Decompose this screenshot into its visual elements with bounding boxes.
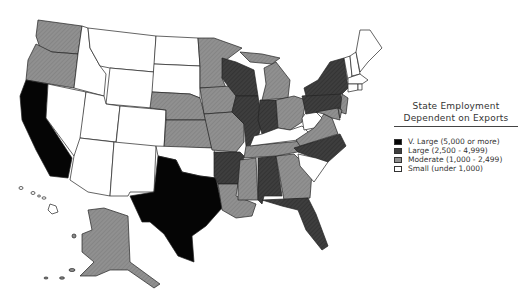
legend-label: Small (under 1,000) bbox=[408, 164, 483, 173]
state-ny bbox=[304, 58, 348, 96]
state-ri bbox=[358, 84, 362, 90]
legend-label: Moderate (1,000 - 2,499) bbox=[408, 155, 502, 164]
state-oh bbox=[276, 96, 306, 130]
state-mi-up bbox=[240, 52, 280, 64]
legend-swatch-large bbox=[394, 148, 402, 154]
legend-swatch-moderate bbox=[394, 157, 402, 163]
legend-item-large: Large (2,500 - 4,999) bbox=[394, 146, 518, 155]
state-ia bbox=[200, 86, 236, 114]
state-ms bbox=[238, 158, 258, 200]
legend-label: V. Large (5,000 or more) bbox=[408, 137, 500, 146]
state-ct bbox=[348, 84, 358, 92]
legend-swatch-very-large bbox=[394, 139, 402, 145]
state-wy bbox=[106, 68, 154, 108]
state-mi bbox=[262, 62, 290, 100]
legend-title-line1: State Employment bbox=[394, 100, 518, 112]
legend-label: Large (2,500 - 4,999) bbox=[408, 146, 488, 155]
state-co bbox=[116, 106, 166, 148]
legend-divider bbox=[394, 126, 518, 127]
state-ks bbox=[164, 120, 212, 148]
state-nd bbox=[154, 36, 200, 66]
alaska-islands bbox=[44, 234, 76, 279]
state-nm bbox=[110, 142, 156, 196]
state-hi bbox=[19, 187, 58, 215]
legend-title-line2: Dependent on Exports bbox=[394, 112, 518, 124]
map-legend: State Employment Dependent on Exports V.… bbox=[394, 100, 518, 173]
legend-item-moderate: Moderate (1,000 - 2,499) bbox=[394, 155, 518, 164]
state-fl bbox=[262, 198, 328, 250]
legend-item-small: Small (under 1,000) bbox=[394, 164, 518, 173]
legend-swatch-small bbox=[394, 166, 402, 172]
legend-item-very-large: V. Large (5,000 or more) bbox=[394, 137, 518, 146]
state-me bbox=[356, 30, 382, 72]
